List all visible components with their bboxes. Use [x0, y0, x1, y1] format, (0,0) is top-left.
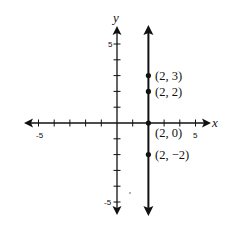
x-tick-label-min: -5 [36, 131, 44, 140]
point-2-0 [146, 120, 151, 125]
x-axis-label: x [211, 115, 218, 130]
y-axis-label: y [111, 10, 119, 25]
point-2-3 [146, 73, 151, 78]
point-2-2 [146, 89, 151, 94]
point-2-neg2 [146, 152, 151, 157]
coordinate-plane: y x -5 5 5 -5 (2, 3) (2, 2) (2, 0) (2, −… [0, 0, 227, 231]
point-label-2-0: (2, 0) [155, 126, 182, 140]
stray-mark [129, 192, 131, 194]
x-tick-label-max: 5 [193, 131, 198, 140]
y-tick-label-max: 5 [108, 40, 113, 49]
y-axis [113, 26, 122, 215]
point-label-2-3: (2, 3) [155, 69, 182, 83]
point-label-2-neg2: (2, −2) [155, 148, 189, 162]
point-label-2-2: (2, 2) [155, 85, 182, 99]
y-tick-label-min: -5 [104, 198, 112, 207]
